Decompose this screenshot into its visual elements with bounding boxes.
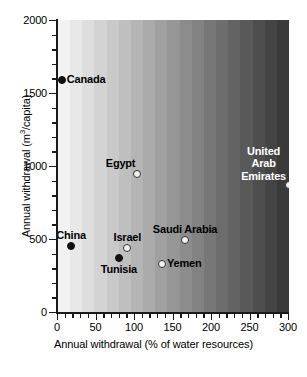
gradient-band bbox=[228, 20, 240, 312]
y-axis-minor-tick bbox=[52, 283, 58, 284]
data-label-israel: Israel bbox=[114, 232, 142, 244]
gradient-band bbox=[143, 20, 155, 312]
x-axis-tick-label: 150 bbox=[164, 321, 182, 333]
y-axis-minor-tick bbox=[52, 268, 58, 269]
y-axis-tick-label: 2000 bbox=[23, 14, 47, 26]
x-axis-minor-tick bbox=[180, 313, 181, 318]
gradient-band bbox=[155, 20, 167, 312]
data-label-canada: Canada bbox=[67, 74, 106, 86]
data-label-united-arab-emirates: UnitedArabEmirates bbox=[241, 145, 286, 183]
x-axis-minor-tick bbox=[80, 313, 81, 318]
data-point-saudi-arabia[interactable] bbox=[181, 236, 189, 244]
x-axis-minor-tick bbox=[265, 313, 266, 318]
x-axis-minor-tick bbox=[196, 313, 197, 318]
y-axis-minor-tick bbox=[52, 195, 58, 196]
x-axis-major-tick bbox=[288, 313, 289, 320]
data-point-canada[interactable] bbox=[58, 76, 66, 84]
y-axis-minor-tick bbox=[52, 122, 58, 123]
data-point-israel[interactable] bbox=[123, 244, 131, 252]
data-label-line: United bbox=[241, 145, 286, 158]
x-axis-minor-tick bbox=[188, 313, 189, 318]
y-axis-minor-tick bbox=[52, 78, 58, 79]
x-axis-minor-tick bbox=[72, 313, 73, 318]
x-axis-minor-tick bbox=[157, 313, 158, 318]
y-axis-major-tick bbox=[49, 312, 57, 313]
plot-area: CanadaEgyptUnitedArabEmiratesChinaIsrael… bbox=[57, 20, 289, 313]
y-axis-major-tick bbox=[49, 93, 57, 94]
y-axis-title: Annual withdrawal (m3/capita) bbox=[20, 56, 32, 276]
gradient-band bbox=[70, 20, 82, 312]
y-axis-minor-tick bbox=[52, 108, 58, 109]
gradient-band bbox=[204, 20, 216, 312]
x-axis-major-tick bbox=[134, 313, 135, 320]
y-axis-minor-tick bbox=[52, 151, 58, 152]
data-label-line: Arab bbox=[241, 157, 286, 170]
y-axis-major-tick bbox=[49, 20, 57, 21]
x-axis-minor-tick bbox=[142, 313, 143, 318]
x-axis-minor-tick bbox=[88, 313, 89, 318]
y-axis-minor-tick bbox=[52, 210, 58, 211]
y-axis-minor-tick bbox=[52, 49, 58, 50]
data-label-yemen: Yemen bbox=[167, 258, 201, 270]
x-axis-major-tick bbox=[96, 313, 97, 320]
x-axis-tick-label: 0 bbox=[54, 321, 60, 333]
gradient-band bbox=[58, 20, 70, 312]
data-label-egypt: Egypt bbox=[106, 158, 136, 170]
y-axis-minor-tick bbox=[52, 297, 58, 298]
y-axis-tick-label: 0 bbox=[41, 306, 47, 318]
y-axis-major-tick bbox=[49, 166, 57, 167]
x-axis-minor-tick bbox=[165, 313, 166, 318]
gradient-band bbox=[82, 20, 94, 312]
y-axis-minor-tick bbox=[52, 137, 58, 138]
data-point-china[interactable] bbox=[67, 242, 75, 250]
x-axis-minor-tick bbox=[257, 313, 258, 318]
x-axis-tick-label: 100 bbox=[125, 321, 143, 333]
x-axis-minor-tick bbox=[119, 313, 120, 318]
data-point-yemen[interactable] bbox=[158, 260, 166, 268]
y-axis-minor-tick bbox=[52, 35, 58, 36]
data-label-saudi-arabia: Saudi Arabia bbox=[153, 224, 217, 236]
y-axis-minor-tick bbox=[52, 181, 58, 182]
x-axis-minor-tick bbox=[219, 313, 220, 318]
x-axis-minor-tick bbox=[65, 313, 66, 318]
x-axis-minor-tick bbox=[149, 313, 150, 318]
x-axis-tick-label: 250 bbox=[241, 321, 259, 333]
x-axis-major-tick bbox=[211, 313, 212, 320]
y-axis-minor-tick bbox=[52, 64, 58, 65]
y-axis-minor-tick bbox=[52, 224, 58, 225]
y-axis-minor-tick bbox=[52, 254, 58, 255]
x-axis-major-tick bbox=[250, 313, 251, 320]
scatter-chart-figure: CanadaEgyptUnitedArabEmiratesChinaIsrael… bbox=[0, 0, 307, 377]
x-axis-minor-tick bbox=[242, 313, 243, 318]
data-label-line: Emirates bbox=[241, 170, 286, 183]
x-axis-minor-tick bbox=[103, 313, 104, 318]
x-axis-tick-label: 300 bbox=[279, 321, 297, 333]
y-axis-major-tick bbox=[49, 239, 57, 240]
x-axis-minor-tick bbox=[273, 313, 274, 318]
x-axis-minor-tick bbox=[234, 313, 235, 318]
x-axis-major-tick bbox=[57, 313, 58, 320]
x-axis-minor-tick bbox=[226, 313, 227, 318]
x-axis-tick-label: 50 bbox=[90, 321, 102, 333]
x-axis-minor-tick bbox=[126, 313, 127, 318]
data-label-china: China bbox=[57, 230, 86, 242]
data-point-egypt[interactable] bbox=[133, 170, 141, 178]
x-axis-tick-label: 200 bbox=[202, 321, 220, 333]
x-axis-minor-tick bbox=[280, 313, 281, 318]
x-axis-minor-tick bbox=[203, 313, 204, 318]
gradient-band bbox=[216, 20, 228, 312]
data-point-tunisia[interactable] bbox=[115, 254, 123, 262]
x-axis-minor-tick bbox=[111, 313, 112, 318]
x-axis-title: Annual withdrawal (% of water resources) bbox=[0, 338, 307, 350]
data-label-tunisia: Tunisia bbox=[101, 264, 137, 276]
x-axis-major-tick bbox=[173, 313, 174, 320]
